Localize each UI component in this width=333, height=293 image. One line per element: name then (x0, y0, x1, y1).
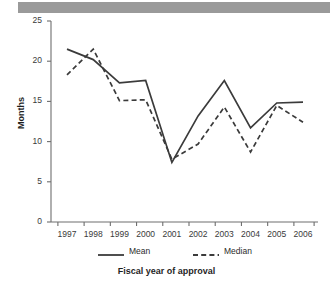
legend-swatch-mean (98, 246, 124, 256)
legend-swatch-median (193, 246, 219, 256)
legend-entry-median[interactable]: Median (193, 244, 252, 258)
legend-label-mean: Mean (129, 246, 150, 256)
y-tick-label: 25 (18, 15, 42, 25)
x-axis-title: Fiscal year of approval (0, 266, 333, 276)
y-tick-label: 5 (18, 176, 42, 186)
series-line-mean (67, 49, 303, 162)
y-tick-label: 20 (18, 55, 42, 65)
y-tick-label: 0 (18, 216, 42, 226)
y-tick-label: 15 (18, 95, 42, 105)
x-tick-label-2006: 2006 (286, 229, 320, 239)
legend-entry-mean[interactable]: Mean (98, 244, 150, 258)
y-tick-label: 10 (18, 136, 42, 146)
chart-legend: MeanMedian (0, 244, 333, 260)
chart-figure: Months Fiscal year of approval 051015202… (0, 0, 333, 293)
series-line-median (67, 49, 303, 159)
legend-label-median: Median (224, 246, 252, 256)
y-axis-title: Months (16, 83, 26, 143)
